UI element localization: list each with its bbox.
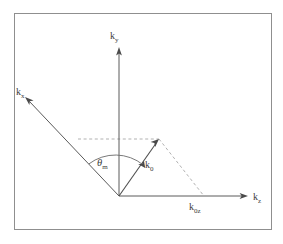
figure-frame: [15, 14, 272, 230]
vector-diagram: ky kx kz k0 k0z θm: [0, 0, 283, 244]
figure-container: ky kx kz k0 k0z θm: [0, 0, 283, 244]
